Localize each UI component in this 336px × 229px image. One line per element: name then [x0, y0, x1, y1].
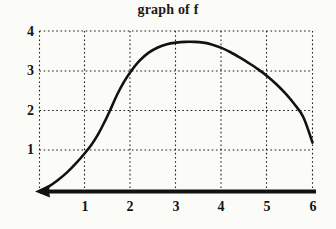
y-tick-label-4: 4 [20, 24, 34, 40]
x-tick-label-1: 1 [77, 199, 93, 215]
plot-area [0, 0, 336, 229]
y-tick-label-3: 3 [20, 63, 34, 79]
x-tick-label-4: 4 [213, 199, 229, 215]
x-tick-label-3: 3 [168, 199, 184, 215]
function-curve [40, 42, 313, 192]
x-tick-label-6: 6 [305, 199, 321, 215]
figure-canvas: graph of f 4 3 2 1 1 2 [0, 0, 336, 229]
x-tick-label-5: 5 [259, 199, 275, 215]
x-tick-label-2: 2 [122, 199, 138, 215]
y-tick-label-2: 2 [20, 103, 34, 119]
y-tick-label-1: 1 [20, 142, 34, 158]
